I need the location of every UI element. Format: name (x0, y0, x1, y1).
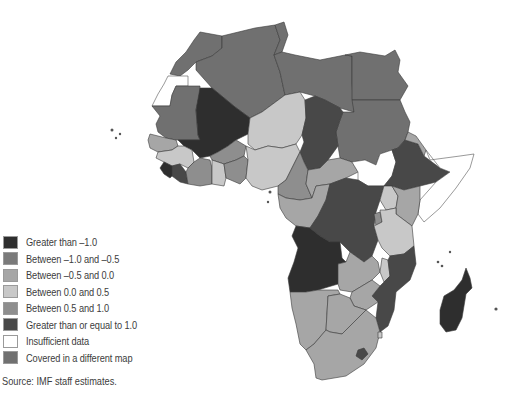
region-madagascar (440, 268, 472, 332)
legend-item: Between 0.0 and 0.5 (3, 284, 152, 301)
island-comoros (441, 265, 444, 268)
legend-label: Greater than or equal to 1.0 (26, 319, 137, 331)
legend-swatch (3, 335, 18, 348)
legend-label: Covered in a different map (26, 352, 132, 364)
region-mozambique (372, 246, 416, 332)
legend-item: Between –1.0 and –0.5 (3, 251, 152, 268)
legend-label: Between 0.5 and 1.0 (26, 302, 109, 314)
island-sao-tome (267, 201, 269, 203)
legend-label: Between –0.5 and 0.0 (26, 269, 114, 281)
island-sao-tome (269, 191, 272, 194)
legend-swatch (3, 269, 18, 282)
legend-label: Between –1.0 and –0.5 (26, 253, 119, 265)
island-cape-verde (111, 129, 114, 132)
legend-swatch (3, 318, 18, 331)
legend-swatch (3, 302, 18, 315)
island-cape-verde (119, 133, 121, 135)
legend-swatch (3, 252, 18, 265)
island-mauritius (494, 307, 497, 310)
island-comoros (437, 261, 440, 264)
legend-swatch (3, 285, 18, 298)
legend-item: Insufficient data (3, 333, 152, 350)
legend-swatch (3, 236, 18, 249)
source-note: Source: IMF staff estimates. (2, 375, 117, 387)
legend-item: Greater than or equal to 1.0 (3, 317, 152, 334)
region-egypt (345, 50, 408, 100)
legend-label: Between 0.0 and 0.5 (26, 286, 109, 298)
legend-item: Covered in a different map (3, 350, 152, 367)
island-seychelles (449, 251, 451, 253)
legend-item: Between 0.5 and 1.0 (3, 300, 152, 317)
legend: Greater than –1.0 Between –1.0 and –0.5 … (3, 234, 152, 366)
legend-label: Greater than –1.0 (26, 236, 97, 248)
region-swaziland (378, 332, 382, 338)
legend-label: Insufficient data (26, 335, 89, 347)
legend-swatch (3, 351, 18, 364)
island-cape-verde (115, 137, 117, 139)
legend-item: Between –0.5 and 0.0 (3, 267, 152, 284)
legend-item: Greater than –1.0 (3, 234, 152, 251)
